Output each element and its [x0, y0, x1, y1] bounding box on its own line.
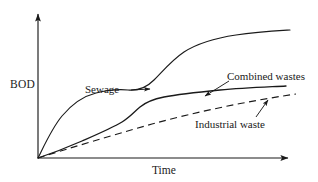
- curve-sewage: [38, 30, 290, 158]
- bod-time-figure: BOD Time Sewage Combined wastes Industri…: [0, 0, 318, 182]
- curve-label-industrial-waste: Industrial waste: [195, 119, 265, 130]
- industrial-waste-pointer-arrow: [256, 100, 268, 117]
- x-axis-label: Time: [152, 165, 176, 177]
- curve-label-combined-wastes: Combined wastes: [227, 71, 305, 82]
- sewage-pointer-arrow: [131, 89, 150, 90]
- combined-wastes-pointer-arrow: [205, 81, 229, 96]
- y-axis-label: BOD: [10, 79, 35, 91]
- plot-canvas: [0, 0, 318, 182]
- curve-label-sewage: Sewage: [85, 84, 119, 95]
